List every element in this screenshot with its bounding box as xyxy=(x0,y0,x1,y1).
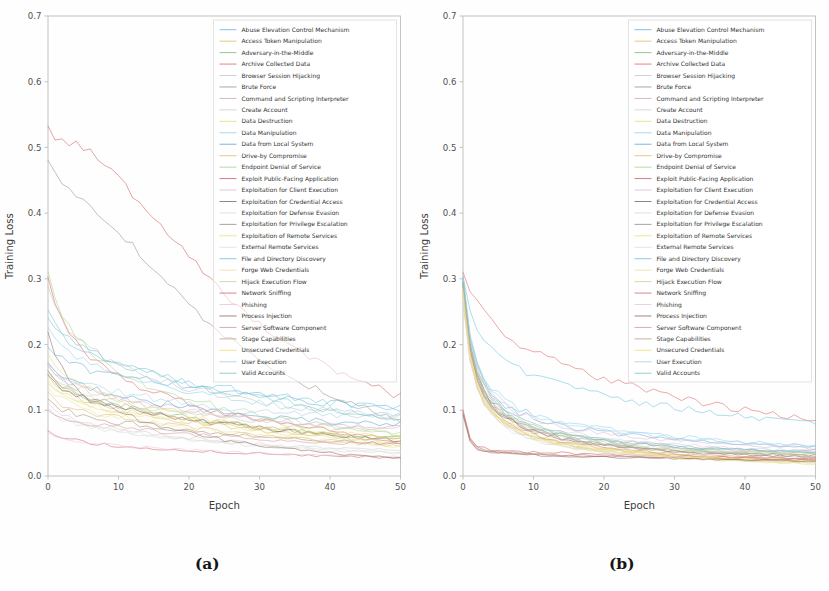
legend-label: Valid Accounts xyxy=(656,369,700,376)
y-tick-label: 0.2 xyxy=(28,340,42,350)
legend-label: Archive Collected Data xyxy=(242,60,311,67)
legend-label: Unsecured Credentials xyxy=(656,346,724,353)
y-tick-label: 0.1 xyxy=(442,405,456,415)
legend-label: External Remote Services xyxy=(656,243,733,250)
y-tick-label: 0.2 xyxy=(442,340,456,350)
x-tick-label: 10 xyxy=(528,482,539,492)
legend-label: Stage Capabilities xyxy=(656,335,710,343)
legend-label: Data from Local System xyxy=(242,140,314,148)
y-tick-label: 0.1 xyxy=(28,405,42,415)
y-tick-label: 0.0 xyxy=(28,471,42,481)
x-tick-label: 0 xyxy=(45,482,50,492)
y-tick-label: 0.4 xyxy=(442,208,456,218)
legend-label: User Execution xyxy=(242,358,287,365)
legend-label: Exploitation for Privilege Escalation xyxy=(242,220,348,228)
legend-label: Exploit Public-Facing Application xyxy=(656,175,753,183)
legend-label: Valid Accounts xyxy=(242,369,286,376)
legend-label: Hijack Execution Flow xyxy=(242,278,307,286)
x-tick-label: 40 xyxy=(739,482,750,492)
legend-label: Brute Force xyxy=(656,83,691,90)
x-tick-label: 0 xyxy=(460,482,465,492)
legend-label: Exploitation for Privilege Escalation xyxy=(656,220,762,228)
y-tick-label: 0.3 xyxy=(442,274,456,284)
legend-label: Exploitation of Remote Services xyxy=(656,232,752,240)
legend-label: Endpoint Denial of Service xyxy=(242,163,322,171)
legend-label: User Execution xyxy=(656,358,701,365)
legend-label: Exploitation for Defense Evasion xyxy=(242,209,340,217)
legend-label: Drive-by Compromise xyxy=(656,152,722,160)
legend-label: Unsecured Credentials xyxy=(242,346,310,353)
legend-label: Browser Session Hijacking xyxy=(656,72,735,80)
y-tick-label: 0.7 xyxy=(442,11,456,21)
legend-label: External Remote Services xyxy=(242,243,319,250)
legend-label: Process Injection xyxy=(242,312,293,320)
caption-b: (b) xyxy=(415,554,829,573)
legend-label: Adversary-in-the-Middle xyxy=(242,49,314,57)
legend-label: File and Directory Discovery xyxy=(242,255,327,263)
legend-label: Data Manipulation xyxy=(656,129,711,137)
legend-label: Forge Web Credentials xyxy=(656,266,724,274)
x-tick-label: 50 xyxy=(395,482,406,492)
y-tick-label: 0.7 xyxy=(28,11,42,21)
legend-label: Server Software Component xyxy=(656,324,741,332)
x-tick-label: 40 xyxy=(325,482,336,492)
legend-label: Data Manipulation xyxy=(242,129,297,137)
x-axis-label: Epoch xyxy=(623,500,654,511)
legend-label: Create Account xyxy=(656,106,703,113)
legend-label: Network Sniffing xyxy=(656,289,706,297)
legend-label: Phishing xyxy=(656,301,681,309)
legend-label: Archive Collected Data xyxy=(656,60,725,67)
x-tick-label: 20 xyxy=(184,482,195,492)
legend-label: Phishing xyxy=(242,301,267,309)
legend-label: Data from Local System xyxy=(656,140,728,148)
x-tick-label: 20 xyxy=(598,482,609,492)
y-tick-label: 0.0 xyxy=(442,471,456,481)
x-tick-label: 50 xyxy=(810,482,821,492)
legend-label: Abuse Elevation Control Mechanism xyxy=(656,26,764,33)
caption-row: (a) (b) xyxy=(0,548,829,591)
y-tick-label: 0.5 xyxy=(442,143,456,153)
y-tick-label: 0.3 xyxy=(28,274,42,284)
x-tick-label: 30 xyxy=(254,482,265,492)
legend-label: File and Directory Discovery xyxy=(656,255,741,263)
y-axis-label: Training Loss xyxy=(4,213,15,280)
x-axis-label: Epoch xyxy=(209,500,240,511)
legend-label: Command and Scripting Interpreter xyxy=(656,95,763,103)
legend-label: Brute Force xyxy=(242,83,277,90)
y-axis-label: Training Loss xyxy=(419,213,430,280)
figure-training-loss: 0.00.10.20.30.40.50.60.701020304050Epoch… xyxy=(0,0,829,591)
legend-label: Command and Scripting Interpreter xyxy=(242,95,349,103)
legend-label: Exploitation of Remote Services xyxy=(242,232,338,240)
legend-label: Exploitation for Defense Evasion xyxy=(656,209,754,217)
y-tick-label: 0.6 xyxy=(442,77,456,87)
legend-label: Create Account xyxy=(242,106,289,113)
panel-b: 0.00.10.20.30.40.50.60.701020304050Epoch… xyxy=(415,0,829,548)
y-tick-label: 0.4 xyxy=(28,208,42,218)
legend-label: Exploitation for Credential Access xyxy=(242,198,343,206)
legend-label: Data Destruction xyxy=(656,117,707,124)
panel-a: 0.00.10.20.30.40.50.60.701020304050Epoch… xyxy=(0,0,415,548)
y-tick-label: 0.6 xyxy=(28,77,42,87)
legend-label: Endpoint Denial of Service xyxy=(656,163,736,171)
chart-b: 0.00.10.20.30.40.50.60.701020304050Epoch… xyxy=(415,0,829,548)
legend-label: Exploitation for Client Execution xyxy=(656,186,753,194)
chart-a: 0.00.10.20.30.40.50.60.701020304050Epoch… xyxy=(0,0,415,548)
legend-label: Stage Capabilities xyxy=(242,335,296,343)
legend-label: Server Software Component xyxy=(242,324,327,332)
x-tick-label: 10 xyxy=(113,482,124,492)
panel-row: 0.00.10.20.30.40.50.60.701020304050Epoch… xyxy=(0,0,829,548)
legend-label: Exploitation for Client Execution xyxy=(242,186,339,194)
y-tick-label: 0.5 xyxy=(28,143,42,153)
legend-label: Access Token Manipulation xyxy=(656,37,736,45)
legend-label: Access Token Manipulation xyxy=(242,37,322,45)
x-tick-label: 30 xyxy=(669,482,680,492)
legend-label: Exploitation for Credential Access xyxy=(656,198,757,206)
legend-label: Network Sniffing xyxy=(242,289,292,297)
legend-label: Adversary-in-the-Middle xyxy=(656,49,728,57)
legend-label: Drive-by Compromise xyxy=(242,152,308,160)
caption-a: (a) xyxy=(0,554,415,573)
legend-label: Process Injection xyxy=(656,312,707,320)
legend-label: Forge Web Credentials xyxy=(242,266,310,274)
legend-label: Exploit Public-Facing Application xyxy=(242,175,339,183)
legend-label: Abuse Elevation Control Mechanism xyxy=(242,26,350,33)
